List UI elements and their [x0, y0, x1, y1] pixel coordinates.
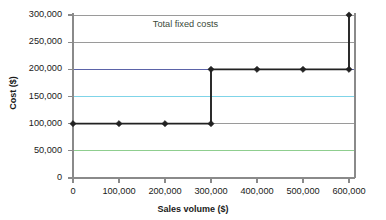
series-marker — [70, 121, 76, 127]
series-marker — [208, 121, 214, 127]
series-marker — [254, 66, 260, 72]
series-marker — [300, 66, 306, 72]
series-marker — [346, 66, 352, 72]
x-tick-label: 300,000 — [194, 186, 227, 196]
x-tick-label: 100,000 — [102, 186, 135, 196]
x-tick-label: 0 — [70, 186, 75, 196]
series-marker — [208, 66, 214, 72]
plot-area — [0, 0, 386, 220]
x-tick-label: 200,000 — [148, 186, 181, 196]
series-annotation-label: Total fixed costs — [153, 19, 218, 29]
series-marker — [116, 121, 122, 127]
x-axis-title: Sales volume ($) — [0, 204, 386, 214]
x-tick-label: 600,000 — [332, 186, 365, 196]
series-marker — [162, 121, 168, 127]
series-marker — [346, 12, 352, 18]
x-tick-label: 500,000 — [286, 186, 319, 196]
fixed-cost-step-chart: Cost ($) 050,000100,000150,000200,000250… — [0, 0, 386, 220]
x-tick-label: 400,000 — [240, 186, 273, 196]
